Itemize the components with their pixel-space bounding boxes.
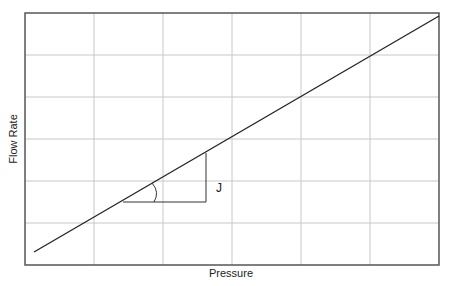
y-axis-label: Flow Rate [7, 114, 19, 164]
flow-rate-pressure-chart: J Pressure Flow Rate [0, 0, 452, 286]
x-axis-label: Pressure [209, 267, 253, 279]
slope-label-j: J [216, 181, 222, 195]
